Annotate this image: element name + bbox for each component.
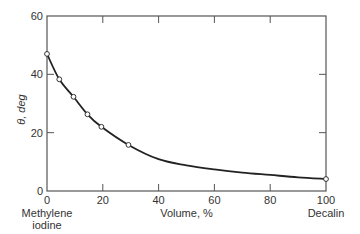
x-tick-label: 0 xyxy=(44,194,50,206)
data-point-marker xyxy=(99,124,104,129)
y-axis-label: θ, deg xyxy=(15,93,27,124)
data-points xyxy=(45,52,329,182)
x-axis-label: Volume, % xyxy=(160,207,213,219)
x-tick-label: 40 xyxy=(152,194,164,206)
data-point-marker xyxy=(71,94,76,99)
y-tick-label: 0 xyxy=(37,185,43,197)
chart: 0204060801000204060 Volume, %θ, degMethy… xyxy=(0,0,360,234)
x-tick-label: 60 xyxy=(208,194,220,206)
data-point-marker xyxy=(126,143,131,148)
x-end-label-left: iodine xyxy=(32,219,61,231)
y-tick-label: 60 xyxy=(31,10,43,22)
x-end-label-left: Methylene xyxy=(22,207,73,219)
y-tick-label: 40 xyxy=(31,68,43,80)
chart-svg: 0204060801000204060 Volume, %θ, degMethy… xyxy=(0,0,360,234)
data-point-marker xyxy=(57,77,62,82)
x-tick-label: 100 xyxy=(317,194,335,206)
data-point-marker xyxy=(45,52,50,57)
y-tick-label: 20 xyxy=(31,127,43,139)
x-tick-label: 80 xyxy=(264,194,276,206)
data-point-marker xyxy=(324,177,329,182)
x-tick-label: 20 xyxy=(97,194,109,206)
data-point-marker xyxy=(85,112,90,117)
x-end-label-right: Decalin xyxy=(308,207,345,219)
axis-labels: Volume, %θ, degMethyleneiodineDecalin xyxy=(15,93,344,231)
